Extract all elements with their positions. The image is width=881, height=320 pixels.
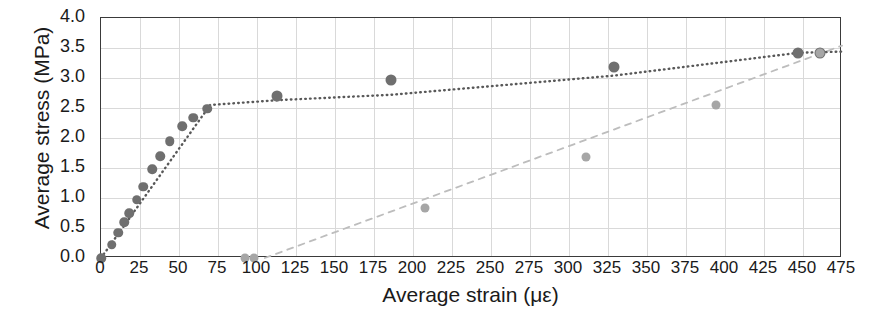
plot-area xyxy=(100,17,841,257)
data-point xyxy=(165,136,175,146)
y-tick-label: 1.0 xyxy=(0,186,92,207)
data-point xyxy=(148,164,158,174)
data-point xyxy=(156,151,166,161)
data-point xyxy=(793,47,804,58)
y-tick-label: 0.0 xyxy=(0,246,92,267)
data-point xyxy=(272,91,283,102)
data-point xyxy=(202,104,212,114)
x-tick-label: 475 xyxy=(811,258,871,278)
data-point xyxy=(120,217,130,227)
data-point xyxy=(138,182,148,192)
y-tick-label: 0.5 xyxy=(0,216,92,237)
data-point xyxy=(816,48,825,57)
x-axis-title: Average strain (με) xyxy=(100,283,841,307)
data-point xyxy=(188,113,198,123)
trendline-dark-trend xyxy=(101,52,842,258)
data-point xyxy=(421,204,430,213)
y-tick-label: 1.5 xyxy=(0,156,92,177)
data-point xyxy=(132,195,142,205)
data-point xyxy=(609,62,620,73)
y-tick-label: 2.5 xyxy=(0,96,92,117)
chart-figure: Average stress (MPa) Average strain (με)… xyxy=(0,0,881,320)
trendline-layer xyxy=(101,18,842,258)
y-tick-label: 2.0 xyxy=(0,126,92,147)
data-point xyxy=(711,101,720,110)
data-point xyxy=(582,153,591,162)
data-point xyxy=(124,208,134,218)
y-tick-label: 3.5 xyxy=(0,36,92,57)
y-tick-label: 3.0 xyxy=(0,66,92,87)
data-point xyxy=(177,121,187,131)
data-point xyxy=(107,240,117,250)
data-point xyxy=(113,228,123,238)
data-point xyxy=(386,75,397,86)
y-tick-label: 4.0 xyxy=(0,6,92,27)
trendline-light-trend xyxy=(265,46,842,258)
